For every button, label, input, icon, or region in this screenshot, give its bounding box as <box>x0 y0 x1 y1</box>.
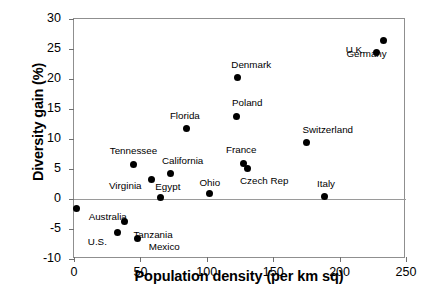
data-point-label: Virginia <box>109 181 142 191</box>
y-tick: 5 <box>69 169 74 170</box>
y-tick-label: 0 <box>21 191 61 205</box>
x-tick: 250 <box>406 257 407 262</box>
data-point-label: Egypt <box>155 182 180 192</box>
data-point <box>157 194 164 201</box>
data-point-label: U.S. <box>88 237 107 247</box>
y-tick-label: -5 <box>21 221 61 235</box>
data-point-label: Denmark <box>231 60 271 70</box>
data-point-label: Czech Rep <box>240 176 288 186</box>
data-point <box>73 205 80 212</box>
y-tick: 10 <box>69 139 74 140</box>
y-tick-label: -10 <box>21 251 61 265</box>
data-point <box>130 161 137 168</box>
y-tick-label: 30 <box>21 11 61 25</box>
y-tick-label: 25 <box>21 41 61 55</box>
data-point <box>114 229 121 236</box>
x-tick: 200 <box>340 257 341 262</box>
y-tick: 15 <box>69 109 74 110</box>
data-point <box>167 170 174 177</box>
data-point-label: Switzerland <box>302 125 353 135</box>
data-point <box>134 235 141 242</box>
data-point-label: Ohio <box>199 178 220 188</box>
data-point <box>148 176 155 183</box>
y-tick: 25 <box>69 49 74 50</box>
data-point-label: Poland <box>232 98 263 108</box>
data-point <box>206 190 213 197</box>
data-point-label: Germany <box>346 49 386 59</box>
y-tick: -5 <box>69 229 74 230</box>
x-tick: 50 <box>140 257 141 262</box>
x-tick: 0 <box>74 257 75 262</box>
data-point-label: Florida <box>170 111 200 121</box>
y-tick-label: 15 <box>21 101 61 115</box>
data-point <box>380 37 387 44</box>
y-tick: 0 <box>69 199 74 200</box>
data-point-label: France <box>226 145 257 155</box>
data-point <box>234 74 241 81</box>
y-tick-label: 10 <box>21 131 61 145</box>
x-tick: 150 <box>273 257 274 262</box>
y-tick: 30 <box>69 19 74 20</box>
data-point-label: Italy <box>317 179 335 189</box>
data-point-label: California <box>162 156 203 166</box>
data-point-label: Tennessee <box>110 146 157 156</box>
y-tick-label: 20 <box>21 71 61 85</box>
data-point-label: Mexico <box>149 242 180 252</box>
y-tick-label: 5 <box>21 161 61 175</box>
data-point <box>244 165 251 172</box>
zero-reference-line <box>74 199 406 200</box>
data-point <box>121 218 128 225</box>
data-point <box>303 139 310 146</box>
scatter-chart-figure: Diversity gain (%) -10-5051015202530 050… <box>0 0 431 290</box>
data-point <box>183 125 190 132</box>
plot-area: -10-5051015202530 050100150200250 Austra… <box>73 18 405 258</box>
data-point <box>233 113 240 120</box>
x-axis-title: Population density (per km sq) <box>73 268 405 284</box>
x-tick: 100 <box>207 257 208 262</box>
y-tick: 20 <box>69 79 74 80</box>
